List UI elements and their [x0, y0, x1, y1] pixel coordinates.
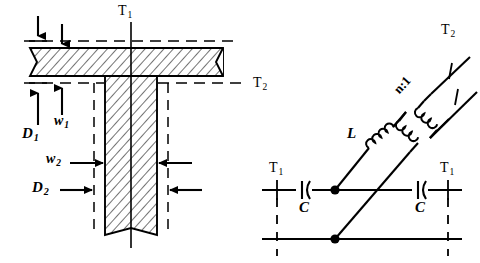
- horizontal-bar-body: [30, 48, 223, 76]
- circuit-t1-right-label: T1: [440, 161, 454, 178]
- inductor-label: L: [347, 126, 356, 141]
- right-panel-group: [262, 57, 477, 256]
- circuit-t2-label: T2: [441, 23, 455, 40]
- transformer-secondary-winding[interactable]: [415, 108, 437, 128]
- d1-label: D1: [22, 126, 39, 143]
- inductor-lead-lower: [335, 148, 369, 190]
- diagram-vector-layer: [0, 0, 480, 263]
- shunt-inductor-coil[interactable]: [366, 124, 394, 148]
- left-t2-label: T2: [253, 76, 267, 93]
- secondary-top-lead: [418, 101, 424, 108]
- t2-output-lead-top: [424, 94, 431, 101]
- figure-canvas: T1 T2 D1 w1 w2 D2 T1 T1 T2 L C C n:1: [0, 0, 480, 263]
- left-panel-group: [24, 16, 246, 248]
- circuit-t1-left-label: T1: [269, 161, 283, 178]
- series-capacitor-right[interactable]: [412, 180, 428, 200]
- series-capacitor-left[interactable]: [296, 180, 312, 200]
- capacitor-right-label: C: [415, 200, 425, 215]
- w2-label: w2: [46, 152, 61, 169]
- capacitor-left-label: C: [299, 200, 309, 215]
- primary-return-lead: [335, 152, 410, 239]
- primary-bottom-lead: [410, 143, 418, 152]
- primary-top-lead: [399, 112, 406, 121]
- w1-label: w1: [54, 114, 69, 131]
- left-t1-label: T1: [118, 4, 132, 21]
- transformer-primary-winding[interactable]: [396, 121, 418, 141]
- t2-plane-tick-lower: [455, 89, 458, 105]
- d2-label: D2: [32, 180, 49, 197]
